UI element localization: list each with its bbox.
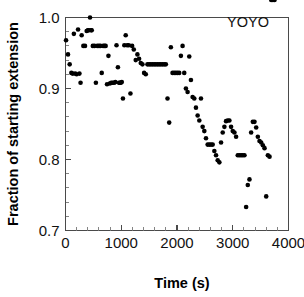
- data-point: [88, 15, 93, 20]
- data-point: [165, 96, 170, 101]
- data-point: [242, 153, 247, 158]
- data-point: [99, 71, 104, 76]
- x-tick-label: 3000: [216, 234, 249, 251]
- x-axis-title: Time (s): [154, 275, 210, 291]
- data-point: [128, 91, 133, 96]
- data-point: [66, 52, 71, 57]
- x-tick-label: 0: [61, 234, 69, 251]
- data-point: [194, 105, 199, 110]
- data-point: [220, 130, 225, 135]
- y-tick-label: 0.8: [39, 151, 60, 168]
- data-point: [244, 205, 249, 210]
- data-point: [182, 71, 187, 76]
- series-annotation-label: YOYO: [227, 14, 269, 30]
- data-point: [247, 177, 252, 182]
- data-point: [114, 43, 119, 48]
- data-point: [200, 125, 205, 130]
- data-point: [262, 146, 267, 151]
- data-point: [77, 71, 82, 76]
- data-point: [185, 90, 190, 95]
- x-axis-ticks: [66, 225, 289, 231]
- data-point: [143, 72, 148, 77]
- data-point: [121, 96, 126, 101]
- data-point: [189, 78, 194, 83]
- data-point: [227, 118, 232, 123]
- data-point: [123, 33, 128, 38]
- data-point: [192, 96, 197, 101]
- data-point: [131, 47, 136, 52]
- data-point: [103, 44, 108, 49]
- data-point: [222, 125, 227, 130]
- data-point: [232, 130, 237, 135]
- data-point: [217, 160, 222, 165]
- data-point: [72, 32, 77, 37]
- data-point: [195, 113, 200, 118]
- data-point: [78, 81, 83, 86]
- data-point: [79, 33, 84, 38]
- data-point: [164, 62, 169, 67]
- data-point: [267, 154, 272, 159]
- x-tick-label: 2000: [160, 234, 193, 251]
- data-point: [202, 129, 207, 134]
- data-point: [135, 52, 140, 57]
- data-point: [167, 120, 172, 125]
- x-axis-tick-labels: 01000200030004000: [61, 234, 304, 251]
- data-point: [177, 71, 182, 76]
- y-tick-label: 0.9: [39, 80, 60, 97]
- chart-figure: 01000200030004000 0.70.80.91.0 YOYO Time…: [0, 0, 304, 297]
- data-point: [169, 45, 174, 50]
- data-point: [180, 44, 185, 49]
- y-tick-label: 1.0: [39, 9, 60, 26]
- data-point: [246, 183, 251, 188]
- data-point: [252, 120, 257, 125]
- data-point: [83, 44, 88, 49]
- data-point: [94, 81, 99, 86]
- data-point: [140, 62, 145, 67]
- data-point: [229, 125, 234, 130]
- data-point: [214, 153, 219, 158]
- data-point: [187, 54, 192, 59]
- y-tick-label: 0.7: [39, 222, 60, 239]
- data-points-layer: [64, 0, 277, 209]
- x-tick-label: 4000: [272, 234, 304, 251]
- x-tick-label: 1000: [105, 234, 138, 251]
- data-point: [212, 149, 217, 154]
- data-point: [120, 80, 125, 85]
- data-point: [204, 136, 209, 141]
- data-point: [64, 38, 69, 43]
- y-axis-ticks: [66, 18, 72, 231]
- scatter-plot: 01000200030004000 0.70.80.91.0 YOYO Time…: [0, 0, 304, 297]
- data-point: [210, 142, 215, 147]
- data-point: [76, 27, 81, 32]
- data-point: [106, 54, 111, 59]
- data-point: [254, 125, 259, 130]
- data-point: [179, 54, 184, 59]
- data-point: [116, 65, 121, 70]
- data-point: [219, 140, 224, 145]
- data-point: [137, 56, 142, 61]
- data-point: [89, 28, 94, 33]
- data-point: [256, 134, 261, 139]
- data-point: [249, 130, 254, 135]
- data-point: [234, 134, 239, 139]
- data-point: [197, 118, 202, 123]
- y-axis-tick-labels: 0.70.80.91.0: [39, 9, 60, 239]
- data-point: [264, 194, 269, 199]
- data-point: [199, 96, 204, 101]
- y-axis-title: Fraction of starting extension: [5, 22, 21, 226]
- data-point: [67, 62, 72, 67]
